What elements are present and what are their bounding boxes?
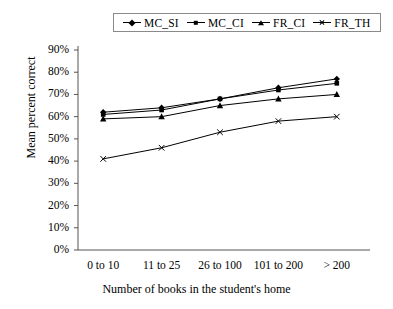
chart-container: MC_SI MC_CI FR_CI FR_TH Mean percent cor… bbox=[0, 0, 393, 309]
data-series-mc-si bbox=[100, 76, 340, 116]
data-point-marker bbox=[335, 81, 340, 86]
data-series-fr-ci bbox=[100, 91, 340, 121]
data-point-marker bbox=[159, 108, 164, 113]
data-point-marker bbox=[218, 97, 223, 102]
data-point-marker bbox=[334, 91, 340, 97]
axes bbox=[74, 46, 370, 250]
data-point-marker bbox=[276, 88, 281, 93]
plot-area bbox=[0, 0, 393, 309]
data-series-fr-th bbox=[100, 114, 339, 162]
data-series-group bbox=[100, 76, 340, 162]
data-series-mc-ci bbox=[101, 81, 339, 117]
